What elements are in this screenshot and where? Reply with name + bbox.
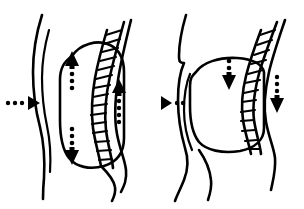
motion-dot bbox=[70, 72, 75, 77]
motion-dot bbox=[70, 141, 75, 146]
motion-dot bbox=[6, 101, 10, 105]
motion-dot bbox=[20, 101, 24, 105]
motion-dot bbox=[13, 101, 17, 105]
motion-dot bbox=[175, 101, 179, 105]
motion-dot bbox=[70, 86, 75, 91]
motion-dot bbox=[275, 82, 279, 86]
motion-dot bbox=[117, 99, 121, 103]
motion-dot bbox=[117, 113, 121, 117]
motion-dot bbox=[70, 127, 75, 132]
line-art-illustration bbox=[0, 0, 304, 209]
motion-dot bbox=[275, 89, 279, 93]
motion-dot bbox=[275, 75, 279, 79]
motion-dot bbox=[117, 120, 121, 124]
motion-dot bbox=[117, 106, 121, 110]
motion-dot bbox=[181, 101, 185, 105]
motion-dot bbox=[227, 59, 232, 64]
motion-dot bbox=[70, 134, 75, 139]
motion-dot bbox=[70, 79, 75, 84]
motion-dot bbox=[227, 66, 232, 71]
figure-root bbox=[0, 0, 304, 209]
